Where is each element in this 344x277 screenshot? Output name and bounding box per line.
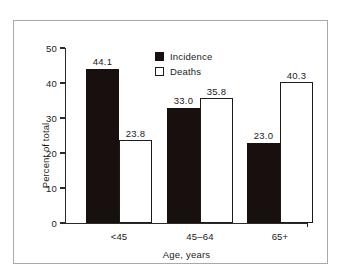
bar-deaths: 23.8 bbox=[119, 140, 152, 223]
figure-frame: 01020304050 44.123.833.035.823.040.3 <45… bbox=[13, 20, 328, 264]
y-axis-title: Percent of total bbox=[40, 68, 52, 243]
y-axis-tick-label: 0 bbox=[52, 218, 57, 229]
x-axis-category-label: 45–64 bbox=[155, 231, 245, 242]
x-axis-line bbox=[65, 223, 308, 224]
bar-deaths: 40.3 bbox=[280, 82, 313, 223]
bar-value-label: 35.8 bbox=[195, 86, 239, 97]
bar-group: 44.123.8 bbox=[86, 48, 152, 223]
bar-incidence: 23.0 bbox=[247, 143, 280, 224]
bar-value-label: 23.0 bbox=[242, 130, 286, 141]
legend-label-incidence: Incidence bbox=[170, 51, 212, 62]
x-axis-category-label: 65+ bbox=[235, 231, 325, 242]
x-axis-category-label: <45 bbox=[74, 231, 164, 242]
legend-item-incidence: Incidence bbox=[155, 50, 212, 63]
bar-deaths: 35.8 bbox=[200, 98, 233, 223]
bar-incidence: 33.0 bbox=[167, 108, 200, 224]
bar-value-label: 44.1 bbox=[81, 56, 125, 67]
bar-group: 23.040.3 bbox=[247, 48, 313, 223]
bar-value-label: 23.8 bbox=[114, 128, 158, 139]
x-axis-title: Age, years bbox=[65, 249, 308, 260]
legend-label-deaths: Deaths bbox=[170, 66, 201, 77]
chart-legend: Incidence Deaths bbox=[155, 50, 212, 80]
bar-incidence: 44.1 bbox=[86, 69, 119, 223]
legend-swatch-deaths bbox=[155, 67, 164, 76]
legend-swatch-incidence bbox=[155, 52, 164, 61]
legend-item-deaths: Deaths bbox=[155, 65, 212, 78]
bar-value-label: 40.3 bbox=[275, 70, 319, 81]
x-axis-end-tick bbox=[307, 223, 308, 227]
y-axis-tick-label: 50 bbox=[46, 43, 57, 54]
